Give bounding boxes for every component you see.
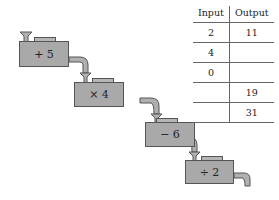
operation-box: + 5 bbox=[19, 41, 69, 67]
input-output-table: Input Output 211 4 0 19 31 bbox=[193, 6, 274, 123]
header-input: Input bbox=[193, 6, 229, 23]
operation-box: ÷ 2 bbox=[185, 160, 234, 184]
table-row: 19 bbox=[193, 83, 274, 103]
table-row: 211 bbox=[193, 23, 274, 43]
table-row: 31 bbox=[193, 103, 274, 123]
table-row: 4 bbox=[193, 43, 274, 63]
operation-box: − 6 bbox=[145, 122, 195, 147]
table-row: 0 bbox=[193, 63, 274, 83]
operation-box: × 4 bbox=[74, 82, 124, 107]
header-output: Output bbox=[229, 6, 273, 23]
